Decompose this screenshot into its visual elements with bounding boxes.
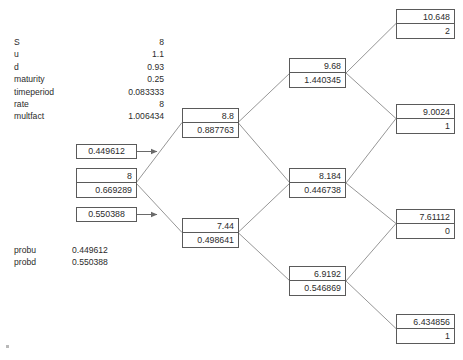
prob-up-value: 0.449612	[77, 145, 136, 158]
legend-row: probd 0.550388	[14, 256, 174, 268]
parameter-name: timeperiod	[14, 86, 54, 98]
node-value: 0.669289	[77, 183, 136, 197]
parameter-name: rate	[14, 98, 29, 110]
parameter-value: 0.083333	[128, 86, 164, 98]
legend-row: probu 0.449612	[14, 244, 174, 256]
node-value: 1	[397, 119, 454, 133]
node-price: 8	[77, 169, 136, 183]
tree-node-terminal-4: 6.434856 1	[396, 314, 455, 344]
parameter-row: rate 8	[14, 98, 164, 110]
parameter-row: S 8	[14, 36, 164, 48]
node-price: 10.648	[397, 10, 454, 24]
probability-legend: probu 0.449612 probd 0.550388	[14, 244, 174, 269]
parameter-value: 8	[159, 36, 164, 48]
node-value: 0	[397, 224, 454, 238]
prob-down-box: 0.550388	[76, 207, 137, 222]
parameter-value: 8	[159, 98, 164, 110]
tree-node-up-up: 9.68 1.440345	[289, 58, 346, 88]
parameter-value: 1.1	[152, 48, 164, 60]
node-price: 7.44	[183, 219, 238, 233]
prob-up-box: 0.449612	[76, 144, 137, 159]
node-price: 8.184	[290, 169, 345, 183]
parameter-name: u	[14, 48, 19, 60]
node-price: 8.8	[183, 109, 238, 123]
tree-node-down-down: 6.9192 0.546869	[289, 266, 346, 296]
node-value: 1	[397, 329, 454, 343]
node-value: 0.887763	[183, 123, 238, 137]
node-value: 2	[397, 24, 454, 38]
parameter-row: maturity 0.25	[14, 73, 164, 85]
tree-node-terminal-1: 10.648 2	[396, 9, 455, 39]
parameter-table: S 8 u 1.1 d 0.93 maturity 0.25 timeperio…	[14, 36, 164, 123]
tree-node-up: 8.8 0.887763	[182, 108, 239, 138]
legend-name: probu	[14, 244, 36, 256]
node-price: 6.434856	[397, 315, 454, 329]
parameter-name: multfact	[14, 110, 44, 122]
parameter-row: multfact 1.006434	[14, 110, 164, 122]
tree-node-terminal-3: 7.61112 0	[396, 209, 455, 239]
node-value: 0.498641	[183, 233, 238, 247]
tree-node-terminal-2: 9.0024 1	[396, 104, 455, 134]
tree-node-up-down: 8.184 0.446738	[289, 168, 346, 198]
node-price: 7.61112	[397, 210, 454, 224]
node-value: 0.446738	[290, 183, 345, 197]
parameter-value: 1.006434	[128, 110, 164, 122]
parameter-row: timeperiod 0.083333	[14, 86, 164, 98]
parameter-row: u 1.1	[14, 48, 164, 60]
prob-down-value: 0.550388	[77, 208, 136, 221]
node-price: 6.9192	[290, 267, 345, 281]
legend-name: probd	[14, 256, 36, 268]
node-value: 0.546869	[290, 281, 345, 295]
parameter-row: d 0.93	[14, 61, 164, 73]
parameter-value: 0.93	[147, 61, 164, 73]
binomial-tree-diagram: S 8 u 1.1 d 0.93 maturity 0.25 timeperio…	[0, 0, 463, 360]
parameter-name: maturity	[14, 73, 45, 85]
tree-node-down: 7.44 0.498641	[182, 218, 239, 248]
parameter-name: S	[14, 36, 20, 48]
node-price: 9.0024	[397, 105, 454, 119]
legend-value: 0.550388	[72, 256, 108, 268]
scan-artifact	[6, 345, 9, 348]
parameter-name: d	[14, 61, 19, 73]
legend-value: 0.449612	[72, 244, 108, 256]
node-value: 1.440345	[290, 73, 345, 87]
parameter-value: 0.25	[147, 73, 164, 85]
node-price: 9.68	[290, 59, 345, 73]
tree-node-root: 8 0.669289	[76, 168, 137, 198]
